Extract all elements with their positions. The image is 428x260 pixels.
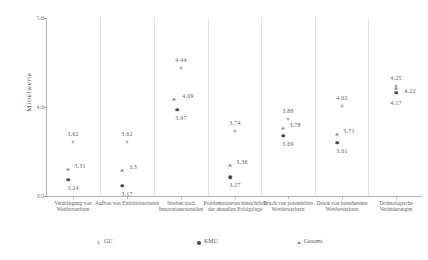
x-tick-mark: [288, 196, 289, 199]
data-label-gesamt: 3.78: [289, 122, 300, 128]
data-point-gu: [180, 66, 183, 69]
category-separator: [315, 18, 316, 196]
x-tick-mark: [235, 196, 236, 199]
data-label-gu: 4.44: [175, 57, 186, 63]
data-label-kmu: 4.17: [390, 100, 401, 106]
category-separator: [154, 18, 155, 196]
category-separator: [100, 18, 101, 196]
x-tick-mark: [396, 196, 397, 199]
y-axis-title: Mittelwerte: [25, 52, 33, 132]
category-separator: [261, 18, 262, 196]
data-label-gesamt: 4.09: [182, 93, 193, 99]
y-tick-label-4: 4.0: [0, 104, 44, 110]
data-label-gesamt: 3.3: [129, 164, 137, 170]
x-tick-mark: [73, 196, 74, 199]
category-separator: [368, 18, 369, 196]
data-label-gesamt: 4.22: [404, 88, 415, 94]
data-point-gesamt: [228, 164, 232, 167]
data-point-gesamt: [335, 132, 339, 135]
plot-area: 3.62 3.31 3.24 3.62 3.3 3.17 4.44 4.09 3…: [47, 18, 422, 196]
data-label-gu: 4.02: [336, 95, 347, 101]
data-label-kmu: 3.97: [175, 115, 186, 121]
data-point-kmu: [335, 141, 339, 145]
data-label-kmu: 3.69: [282, 141, 293, 147]
data-label-gesamt: 3.71: [343, 128, 354, 134]
data-point-gu: [341, 105, 344, 108]
data-label-gu: 3.62: [67, 131, 78, 137]
legend-label-kmu: KMU: [204, 238, 218, 244]
data-label-gu: 3.74: [229, 120, 240, 126]
data-label-gu: 3.62: [121, 131, 132, 137]
data-label-gu: 4.25: [390, 75, 401, 81]
data-point-kmu: [394, 91, 398, 95]
scatter-chart: Mittelwerte 5.0 4.0 3.0 3.62 3.31 3.24 3…: [0, 0, 428, 260]
category-separator: [208, 18, 209, 196]
x-axis-line: [46, 196, 422, 197]
x-tick-mark: [127, 196, 128, 199]
data-point-gesamt: [120, 169, 124, 172]
data-point-gu: [126, 140, 129, 143]
data-point-gu: [287, 117, 290, 120]
data-label-kmu: 3.24: [67, 185, 78, 191]
data-point-kmu: [175, 108, 179, 112]
data-point-kmu: [120, 184, 124, 188]
data-point-gesamt: [66, 168, 70, 171]
y-tick-label-5: 5.0: [0, 15, 44, 21]
data-label-gesamt: 3.31: [74, 163, 85, 169]
legend-triangle-icon: [297, 241, 301, 244]
x-tick-mark: [342, 196, 343, 199]
data-point-gesamt: [394, 87, 398, 90]
data-point-gesamt: [281, 126, 285, 129]
legend-label-gu: GU: [104, 238, 113, 244]
data-label-kmu: 3.61: [336, 148, 347, 154]
x-tick-mark: [181, 196, 182, 199]
data-label-gesamt: 3.36: [236, 159, 247, 165]
data-point-gesamt: [172, 97, 176, 100]
chart-legend: GU KMU Gesamt: [0, 238, 428, 252]
data-point-gu: [234, 130, 237, 133]
data-point-kmu: [228, 175, 232, 179]
data-point-kmu: [66, 178, 70, 182]
y-tick-label-3: 3.0: [0, 193, 44, 199]
data-point-kmu: [281, 134, 285, 138]
legend-label-gesamt: Gesamt: [304, 238, 322, 244]
legend-filled-dot-icon: [197, 241, 201, 245]
data-label-gu: 3.88: [282, 108, 293, 114]
data-point-gu: [72, 140, 75, 143]
x-category-label-7: Technologische Veränderungen: [363, 200, 428, 213]
legend-open-circle-icon: [97, 241, 100, 244]
data-label-kmu: 3.27: [229, 182, 240, 188]
